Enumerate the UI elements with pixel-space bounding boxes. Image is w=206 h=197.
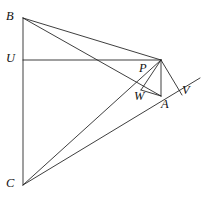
segment-c-v — [23, 78, 200, 185]
vertex-label-p: P — [139, 62, 147, 75]
vertex-label-v: V — [182, 84, 190, 97]
segment-c-t — [23, 60, 161, 185]
vertex-label-w: W — [134, 90, 144, 103]
geometry-figure: BUCPWAV — [0, 0, 206, 197]
segment-t-v — [161, 60, 182, 95]
vertex-label-a: A — [161, 98, 169, 111]
segment-group — [23, 18, 200, 185]
geometry-canvas — [0, 0, 206, 197]
segment-b-t — [23, 18, 161, 60]
vertex-label-u: U — [6, 52, 15, 65]
vertex-label-c: C — [6, 177, 14, 190]
vertex-label-b: B — [6, 10, 14, 23]
segment-b-a — [23, 18, 161, 96]
